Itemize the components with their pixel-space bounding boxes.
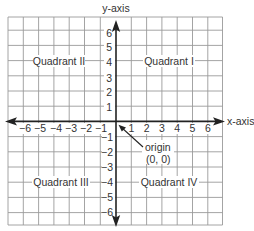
- x-tick: 2: [144, 122, 150, 134]
- x-tick: 3: [159, 122, 165, 134]
- x-tick: −5: [34, 122, 46, 134]
- y-tick: 2: [106, 86, 112, 98]
- x-tick: −3: [65, 122, 77, 134]
- y-tick: 5: [106, 41, 112, 53]
- origin-label: origin: [145, 141, 171, 153]
- x-tick: 5: [190, 122, 196, 134]
- x-tick: 6: [205, 122, 211, 134]
- origin-coords: (0, 0): [146, 153, 171, 165]
- quadrant-1-label: Quadrant I: [144, 55, 194, 67]
- x-axis-label: x-axis: [227, 115, 254, 127]
- y-tick: 4: [106, 56, 112, 68]
- x-tick: 4: [174, 122, 180, 134]
- x-tick: 1: [128, 122, 134, 134]
- x-tick: −6: [19, 122, 31, 134]
- x-tick: −2: [80, 122, 92, 134]
- y-tick: −6: [101, 206, 113, 218]
- y-tick: −2: [101, 146, 113, 158]
- y-tick: −3: [101, 161, 113, 173]
- y-tick: 6: [106, 27, 112, 39]
- y-tick: 3: [106, 72, 112, 84]
- quadrant-3-label: Quadrant III: [33, 176, 88, 188]
- x-tick: −4: [50, 122, 62, 134]
- y-tick: −4: [101, 176, 113, 188]
- quadrant-2-label: Quadrant II: [33, 55, 86, 67]
- y-tick: 1: [106, 101, 112, 113]
- coordinate-plane: y-axis x-axis −6 −5 −4 −3 −2 −1 1 2 3 4 …: [0, 0, 254, 231]
- quadrant-4-label: Quadrant IV: [141, 176, 198, 188]
- y-tick: −5: [101, 191, 113, 203]
- y-tick: −1: [101, 131, 113, 143]
- y-axis-label: y-axis: [102, 2, 129, 14]
